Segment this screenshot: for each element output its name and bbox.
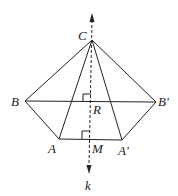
right-angle-r <box>83 94 91 102</box>
label-c: C <box>78 28 87 43</box>
label-a: A <box>47 141 56 156</box>
segment-a-prime-b-prime <box>122 102 156 140</box>
segment-ba <box>25 101 59 139</box>
right-angle-m <box>82 131 90 139</box>
geometry-diagram: C B B' R A M A' k <box>0 0 178 196</box>
arrow-up-icon <box>90 13 95 22</box>
label-b: B <box>11 94 19 109</box>
label-m: M <box>91 141 104 156</box>
arrow-down-icon <box>87 165 92 174</box>
label-b-prime: B' <box>158 94 169 109</box>
segment-aa-prime <box>59 139 122 140</box>
label-r: R <box>92 102 101 117</box>
label-a-prime: A' <box>117 143 129 158</box>
label-k: k <box>85 178 91 193</box>
